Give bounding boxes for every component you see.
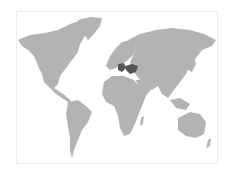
- world-map: [0, 0, 233, 172]
- madagascar: [140, 116, 144, 126]
- central-america: [56, 90, 72, 102]
- southeast-asia-islands: [170, 98, 190, 110]
- greece: [118, 63, 126, 72]
- australia: [178, 112, 206, 138]
- south-america: [66, 100, 92, 158]
- land-masses: [18, 17, 216, 158]
- new-zealand: [206, 138, 211, 148]
